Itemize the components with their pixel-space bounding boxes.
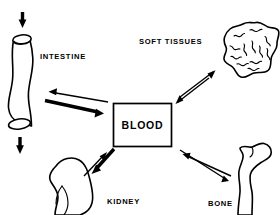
bone-shape — [238, 143, 271, 215]
kidney-shape — [50, 158, 93, 215]
calcium-exchange-diagram: INTESTINE SOFT TISSUES — [0, 0, 280, 215]
arrow-blood-to-kidney — [92, 149, 115, 174]
label-intestine: INTESTINE — [40, 52, 86, 61]
arrow-external-to-intestine — [19, 12, 27, 28]
label-kidney: KIDNEY — [107, 197, 140, 206]
blood-node[interactable]: BLOOD — [114, 104, 172, 147]
arrow-blood-to-soft-tissues — [180, 70, 216, 97]
label-bone: BONE — [208, 199, 233, 208]
arrow-blood-to-intestine — [49, 88, 109, 102]
soft-tissues-shape — [224, 22, 279, 77]
arrow-intestine-to-blood — [45, 101, 104, 118]
arrow-intestine-to-external — [16, 137, 24, 154]
arrow-soft-tissues-to-blood — [176, 78, 210, 104]
label-soft-tissues: SOFT TISSUES — [139, 37, 202, 46]
blood-label: BLOOD — [122, 119, 164, 131]
arrow-blood-to-bone — [180, 150, 229, 182]
intestine-shape — [8, 34, 33, 131]
diagram-canvas: INTESTINE SOFT TISSUES — [0, 0, 280, 215]
